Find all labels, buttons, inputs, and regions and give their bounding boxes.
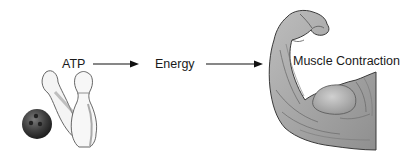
arrow-energy-to-muscle — [206, 61, 263, 68]
atp-energy-diagram: ATP Energy Muscle Contraction — [0, 0, 410, 158]
node-energy-label: Energy — [155, 57, 195, 71]
arrow-atp-to-energy — [93, 61, 139, 68]
bowling-ball-icon — [22, 109, 52, 139]
flexed-arm-icon — [269, 10, 376, 150]
node-atp-label: ATP — [62, 57, 85, 71]
diagram-graphics — [0, 0, 410, 158]
bowling-pins-icon — [42, 71, 97, 147]
node-muscle-contraction-label: Muscle Contraction — [293, 54, 400, 68]
